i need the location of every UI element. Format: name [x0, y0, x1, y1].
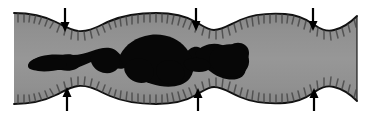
arrow-stem: [64, 8, 66, 24]
arrow-stem: [312, 8, 314, 23]
figure-container: [0, 0, 366, 117]
internal-mass-tail-left: [28, 58, 67, 72]
arrow-stem: [195, 8, 197, 23]
arrow-stem: [66, 95, 68, 111]
constricted-tube-diagram: [0, 0, 366, 117]
arrow-stem: [197, 96, 199, 111]
arrow-stem: [313, 96, 315, 111]
